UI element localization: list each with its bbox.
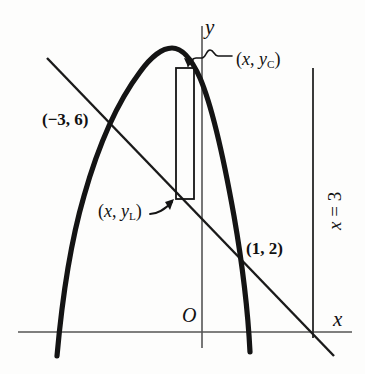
strip-top-x: x <box>242 49 250 69</box>
strip-top-comma: , <box>250 49 255 69</box>
strip-top-label: (x, yC) <box>236 50 280 68</box>
strip-top-subscript: C <box>267 58 274 70</box>
strip-top-close-paren: ) <box>274 49 280 69</box>
strip-top-y: y <box>259 49 267 69</box>
strip-bottom-y: y <box>121 201 129 221</box>
analytic-geometry-figure: y x O (−3, 6) (1, 2) (x, yC) (x, yL) x =… <box>0 0 365 374</box>
strip-bottom-comma: , <box>112 201 117 221</box>
strip-bottom-subscript: L <box>129 210 136 222</box>
parabola-curve-C <box>57 48 250 356</box>
y-axis-label: y <box>205 17 214 38</box>
point-label-1-2: (1, 2) <box>246 240 283 257</box>
origin-label: O <box>182 305 196 325</box>
vertical-line-label-equals: = <box>324 206 345 217</box>
point-label-minus3-6: (−3, 6) <box>42 111 89 128</box>
vertical-line-label-x: x <box>324 222 345 230</box>
x-axis-label: x <box>333 309 342 330</box>
vertical-line-label-value: 3 <box>324 192 345 202</box>
vertical-line-label: x = 3 <box>325 192 344 230</box>
strip-bottom-close-paren: ) <box>136 201 142 221</box>
representative-rectangle <box>176 68 194 199</box>
strip-bottom-label: (x, yL) <box>98 202 142 220</box>
strip-bottom-x: x <box>104 201 112 221</box>
